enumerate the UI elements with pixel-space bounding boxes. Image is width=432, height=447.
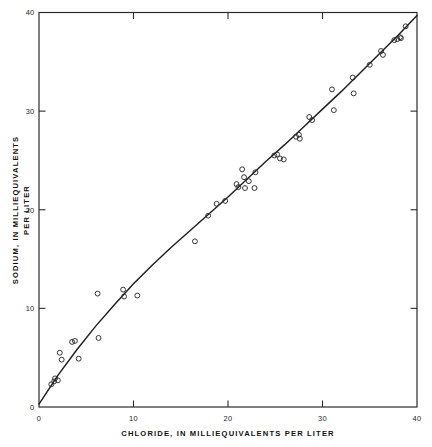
plot-background	[0, 0, 432, 447]
x-axis-title: CHLORIDE, IN MILLIEQUIVALENTS PER LITER	[121, 429, 334, 438]
y-axis-title-line1: SODIUM, IN MILLIEQUIVALENTS	[11, 136, 20, 285]
x-tick-label: 40	[413, 414, 422, 423]
x-tick-label: 20	[224, 414, 233, 423]
y-tick-label: 30	[26, 107, 35, 116]
x-tick-label: 10	[129, 414, 138, 423]
x-tick-label: 30	[318, 414, 327, 423]
y-tick-label: 0	[30, 403, 34, 412]
y-tick-label: 40	[26, 8, 35, 17]
scatter-plot: 010203040010203040 CHLORIDE, IN MILLIEQU…	[0, 0, 432, 447]
y-axis-title-line2: PER LITER	[22, 185, 31, 235]
x-tick-label: 0	[37, 414, 41, 423]
y-tick-label: 10	[26, 304, 35, 313]
chart-figure: 010203040010203040 CHLORIDE, IN MILLIEQU…	[0, 0, 432, 447]
